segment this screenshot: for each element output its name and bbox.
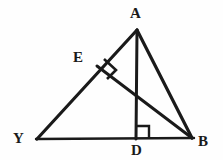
figure-canvas (0, 0, 223, 160)
segment-YB (36, 138, 194, 139)
vertex-label-a: A (130, 6, 141, 21)
vertex-label-e: E (73, 50, 83, 65)
vertex-label-y: Y (13, 131, 24, 146)
segment-AB (137, 30, 192, 138)
geometry-figure: A E Y D B (0, 0, 223, 160)
segment-AD (136, 31, 137, 139)
vertex-label-b: B (198, 134, 208, 149)
right-angle-mark-E (104, 59, 116, 79)
right-angle-mark-D (137, 126, 149, 138)
vertex-label-d: D (131, 143, 142, 158)
